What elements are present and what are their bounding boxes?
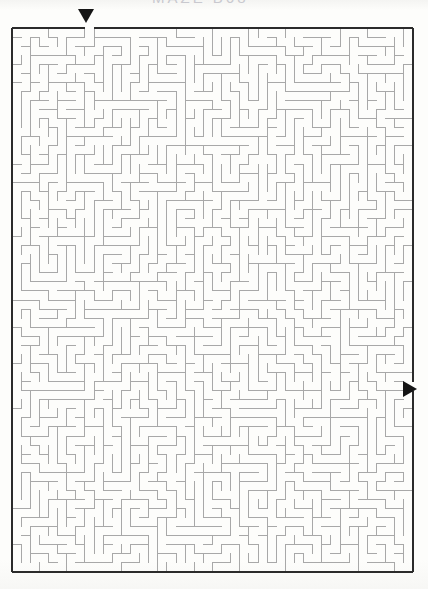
page-root: MAZE B68	[0, 0, 428, 589]
maze-grid	[0, 0, 428, 589]
triangle-right-icon	[403, 381, 417, 397]
maze-container	[0, 0, 428, 589]
triangle-down-icon	[78, 9, 94, 23]
